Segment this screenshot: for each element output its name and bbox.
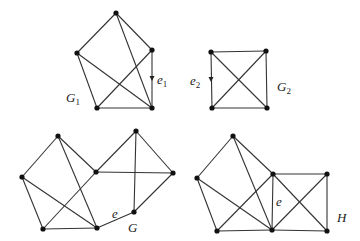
graph-g: Ge [19,128,175,235]
vertex [324,228,329,233]
graph-diagram: G1e1G2e2GeHe [0,0,360,241]
edge [43,172,96,229]
vertex [269,227,274,232]
edge [22,136,58,177]
edge [272,174,273,230]
edge [58,136,96,172]
vertex [40,226,45,231]
vertex [324,171,329,176]
vertex [214,228,219,233]
edge [116,13,152,108]
arrow-down-icon [209,77,214,82]
vertex [263,48,268,53]
edge [233,136,273,174]
edge-label: e2 [190,73,200,90]
vertex [270,171,275,176]
edge [136,131,173,173]
vertex [74,50,79,55]
graph-h: He [194,133,347,233]
vertex [170,170,175,175]
vertex [93,169,98,174]
graph-g2: G2e2 [190,48,291,110]
graph-label: G1 [66,90,80,107]
edge [43,228,97,229]
vertex [19,174,24,179]
edge-label: e [276,194,282,209]
edge [217,230,272,231]
vertex [149,105,154,110]
graph-label: H [336,210,347,225]
vertex [230,133,235,138]
vertex [94,105,99,110]
edge [134,131,136,212]
vertex [94,225,99,230]
edge [97,50,152,108]
edge-label: e [112,206,118,221]
vertex [131,209,136,214]
vertex [149,47,154,52]
vertex [208,49,213,54]
vertex [194,175,199,180]
graph-label: G2 [277,79,291,96]
edge [116,13,152,50]
vertex [133,128,138,133]
edge [134,173,173,212]
graph-g1: G1e1 [66,10,167,110]
edge [272,230,327,231]
vertex [55,133,60,138]
edge [197,178,217,231]
edge [266,51,267,108]
edge-label: e1 [157,72,167,89]
vertex [264,105,269,110]
edge [77,53,97,108]
graph-label: G [128,220,138,235]
edge [77,13,116,53]
vertex [113,10,118,15]
arrow-down-icon [150,76,155,81]
edge [211,51,266,52]
edge [217,174,273,231]
edge [96,131,136,172]
edge [197,136,233,178]
vertex [209,105,214,110]
